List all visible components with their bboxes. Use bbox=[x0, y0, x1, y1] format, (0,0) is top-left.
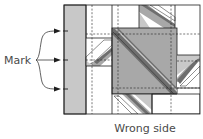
left-middle-strip-unit bbox=[86, 38, 112, 66]
arrowheads bbox=[54, 29, 61, 92]
arrowhead-middle-icon bbox=[54, 58, 61, 63]
mark-label: Mark bbox=[4, 55, 31, 66]
arrowhead-top-icon bbox=[54, 29, 61, 34]
top-right-strip-unit bbox=[139, 5, 175, 28]
caption-wrong-side: Wrong side bbox=[0, 123, 203, 134]
mark-arrows bbox=[36, 31, 56, 89]
quilt-block-diagram bbox=[0, 0, 203, 139]
arrowhead-bottom-icon bbox=[54, 87, 61, 92]
left-gray-strip bbox=[64, 5, 86, 114]
right-middle-strip-unit bbox=[177, 55, 200, 88]
bottom-right-block bbox=[152, 94, 200, 114]
arrow-bottom-curve bbox=[36, 60, 56, 89]
arrow-top-curve bbox=[36, 31, 56, 60]
